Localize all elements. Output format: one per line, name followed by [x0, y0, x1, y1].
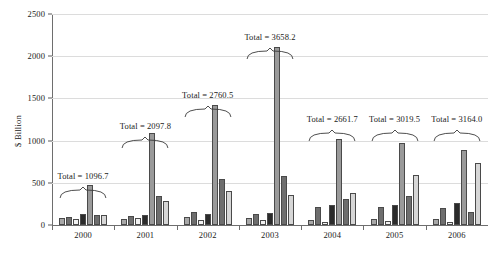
x-axis-tick-label: 2000 — [74, 230, 92, 240]
bar — [281, 176, 287, 225]
bar — [219, 179, 225, 225]
y-axis-tick-label: 1500 — [11, 93, 45, 103]
x-axis-tick-mark — [363, 226, 364, 230]
y-axis-tick-label: 2500 — [11, 9, 45, 19]
bar — [385, 221, 391, 225]
bar — [475, 163, 481, 225]
x-axis-tick-label: 2001 — [137, 230, 155, 240]
bar — [461, 150, 467, 225]
bar — [413, 175, 419, 225]
bar — [433, 219, 439, 225]
bar-group — [114, 14, 176, 225]
total-brace — [58, 184, 108, 202]
total-brace — [307, 127, 357, 145]
total-brace — [183, 103, 233, 121]
bar — [226, 191, 232, 225]
total-label: Total = 3019.5 — [369, 114, 420, 124]
bar — [101, 215, 107, 225]
bar — [184, 217, 190, 225]
bar — [73, 219, 79, 225]
x-axis-tick-label: 2005 — [386, 230, 404, 240]
bar — [253, 214, 259, 225]
x-axis-tick-mark — [426, 226, 427, 230]
bar — [267, 213, 273, 225]
bar — [378, 207, 384, 225]
total-brace — [432, 127, 482, 145]
bar — [447, 222, 453, 225]
bar — [308, 220, 314, 225]
total-label: Total = 3658.2 — [244, 32, 295, 42]
y-axis-tick-label: 1000 — [11, 136, 45, 146]
bar — [260, 220, 266, 225]
y-axis-tick-label: 500 — [11, 178, 45, 188]
bar — [80, 214, 86, 225]
bar — [315, 207, 321, 225]
y-axis-tick-label: 2000 — [11, 51, 45, 61]
bar — [322, 222, 328, 225]
bar — [246, 218, 252, 225]
bar — [399, 143, 405, 225]
x-axis-tick-mark — [177, 226, 178, 230]
bar — [468, 212, 474, 226]
bar — [350, 193, 356, 225]
x-axis-tick-label: 2004 — [323, 230, 341, 240]
bar — [371, 219, 377, 225]
x-axis-line — [52, 225, 488, 226]
bar — [343, 199, 349, 225]
x-axis-tick-mark — [239, 226, 240, 230]
x-axis-tick-mark — [52, 226, 53, 230]
bar — [329, 205, 335, 225]
x-axis-tick-mark — [301, 226, 302, 230]
bar — [212, 105, 218, 225]
total-label: Total = 2760.5 — [182, 90, 233, 100]
bar — [156, 196, 162, 225]
y-axis-tick-label: 0 — [11, 220, 45, 230]
x-axis-tick-label: 2006 — [448, 230, 466, 240]
bar — [336, 139, 342, 225]
bar — [94, 215, 100, 225]
bar — [205, 214, 211, 225]
total-brace — [121, 134, 171, 152]
bar — [274, 47, 280, 225]
bar — [121, 219, 127, 225]
bar — [66, 217, 72, 225]
x-axis-tick-label: 2003 — [261, 230, 279, 240]
bar — [440, 208, 446, 225]
total-label: Total = 2661.7 — [307, 114, 358, 124]
bar — [406, 196, 412, 225]
bar — [135, 218, 141, 225]
total-label: Total = 2097.8 — [120, 121, 171, 131]
bar — [288, 195, 294, 225]
bar — [128, 216, 134, 225]
bar — [142, 215, 148, 225]
total-brace — [370, 127, 420, 145]
chart-figure: $ Billion 05001000150020002500 200020012… — [0, 0, 493, 262]
total-brace — [245, 45, 295, 63]
total-label: Total = 1096.7 — [58, 171, 109, 181]
bar — [198, 220, 204, 225]
bar — [59, 218, 65, 225]
bar — [454, 203, 460, 225]
bar — [163, 201, 169, 225]
x-axis-tick-label: 2002 — [199, 230, 217, 240]
bar — [392, 205, 398, 225]
total-label: Total = 3164.0 — [431, 114, 482, 124]
x-axis-tick-mark — [114, 226, 115, 230]
plot-area: 2000200120022003200420052006 Total = 109… — [52, 14, 488, 226]
bar — [191, 212, 197, 225]
